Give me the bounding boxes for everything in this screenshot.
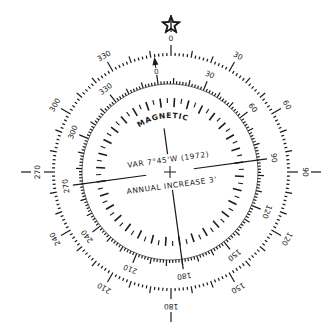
point-tick [131, 231, 135, 235]
tick [70, 233, 73, 235]
tick [79, 165, 82, 166]
tick [281, 208, 284, 209]
point-tick [235, 195, 240, 198]
tick [91, 121, 96, 125]
tick [262, 99, 264, 101]
tick [138, 58, 139, 61]
svg-text:MAGNETIC: MAGNETIC [135, 108, 191, 130]
tick [150, 286, 151, 293]
true-ring-label: 30 [232, 50, 245, 63]
tick [138, 255, 140, 258]
tick [83, 146, 86, 148]
tick [85, 89, 87, 91]
point-tick [116, 121, 120, 125]
tick [203, 284, 204, 287]
tick [115, 274, 116, 277]
point-tick [180, 99, 182, 104]
tick [191, 286, 192, 293]
tick [119, 246, 123, 251]
tick [82, 196, 85, 197]
tick [123, 278, 124, 281]
point-tick [153, 100, 154, 105]
tick [283, 139, 286, 140]
tick [101, 76, 103, 78]
tick [246, 216, 249, 218]
tick [216, 247, 218, 250]
tick [102, 231, 105, 233]
tick [280, 130, 287, 132]
tick [239, 266, 241, 268]
tick [116, 243, 118, 245]
tick [256, 153, 259, 154]
magnetic-ring-label: 120 [260, 203, 274, 220]
point-tick [233, 141, 238, 143]
tick [112, 102, 114, 105]
tick [257, 157, 260, 158]
tick [280, 212, 287, 214]
tick [101, 113, 103, 115]
point-tick [193, 103, 196, 108]
tick [188, 258, 189, 261]
point-tick [199, 235, 201, 240]
tick [138, 284, 139, 287]
tick [260, 247, 265, 251]
point-tick [110, 212, 115, 215]
tick [84, 143, 87, 145]
tick [61, 230, 71, 236]
svg-text:0: 0 [154, 68, 160, 77]
tick [170, 81, 171, 84]
tick [252, 255, 254, 257]
tick [200, 87, 202, 90]
tick [199, 285, 200, 288]
true-ring-label: 240 [47, 230, 62, 247]
compass-rose: 0306090120150180210240270300330 30609012… [0, 0, 334, 335]
point-tick [210, 228, 213, 233]
tick [64, 120, 67, 121]
point-tick [96, 174, 101, 175]
tick [77, 99, 79, 101]
tick [141, 256, 143, 259]
tick [231, 235, 233, 238]
tick [105, 108, 107, 111]
tick [90, 129, 93, 131]
tick [108, 71, 110, 74]
tick [206, 89, 208, 92]
point-tick [107, 133, 111, 137]
tick [224, 241, 230, 250]
tick [254, 143, 260, 145]
tick [273, 226, 276, 227]
tick [233, 233, 235, 236]
point-tick [226, 135, 235, 140]
tick [80, 199, 86, 201]
tick [285, 192, 292, 193]
tick [218, 278, 219, 281]
tick [91, 126, 94, 128]
point-tick [124, 224, 131, 231]
tick [96, 223, 99, 225]
tick [119, 276, 120, 279]
tick [50, 151, 57, 152]
tick [260, 93, 265, 97]
tick [207, 282, 208, 285]
tick [256, 190, 262, 193]
tick [250, 208, 253, 210]
tick [62, 219, 65, 220]
tick [83, 92, 85, 94]
tick [199, 57, 200, 60]
tick [258, 175, 264, 177]
point-tick [217, 118, 221, 122]
tick [129, 251, 131, 254]
tick [229, 62, 235, 72]
tick [108, 62, 114, 72]
tick [222, 276, 223, 279]
tick [239, 226, 241, 228]
tick [104, 268, 106, 270]
tick [182, 82, 183, 85]
tick [72, 237, 74, 239]
tick [83, 250, 85, 252]
tick [155, 82, 156, 85]
point-tick [173, 98, 176, 107]
tick [209, 90, 211, 93]
point-tick [172, 241, 173, 246]
tick [57, 204, 60, 205]
